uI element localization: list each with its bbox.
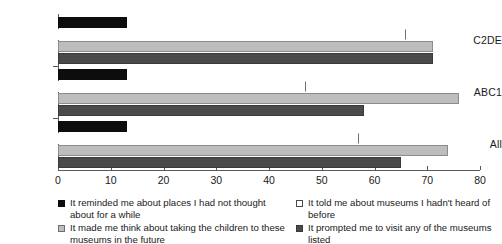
x-axis-tick-label: 0 [55, 174, 61, 186]
x-axis-tick-label: 30 [210, 174, 222, 186]
x-axis-tick-label: 10 [105, 174, 117, 186]
y-axis-tick [53, 66, 58, 67]
bar [58, 145, 448, 156]
x-axis-tick-label: 20 [158, 174, 170, 186]
x-axis-tick-label: 70 [421, 174, 433, 186]
bar [58, 121, 127, 132]
bar [58, 17, 127, 28]
bar [58, 157, 401, 168]
bar [58, 53, 433, 64]
legend-item: It made me think about taking the childr… [58, 222, 288, 244]
bar [58, 41, 433, 52]
bar [58, 133, 359, 144]
bar [58, 93, 459, 104]
legend-item-label: It prompted me to visit any of the museu… [308, 222, 496, 244]
black-square-icon [58, 200, 65, 207]
legend-item-label: It told me about museums I hadn't heard … [308, 197, 496, 220]
plot-area: 01020304050607080C2DEABC1All [0, 0, 502, 192]
bar [58, 105, 364, 116]
bar [58, 29, 406, 40]
legend-item-label: It made me think about taking the childr… [70, 222, 288, 244]
bar [58, 69, 127, 80]
y-axis-category-label: ABC1 [454, 86, 502, 98]
x-axis-tick-label: 60 [369, 174, 381, 186]
dark-gray-square-icon [296, 225, 303, 232]
bar [58, 81, 306, 92]
x-axis-tick-label: 40 [263, 174, 275, 186]
bar-chart: 01020304050607080C2DEABC1All It reminded… [0, 0, 502, 244]
legend-item: It reminded me about places I had not th… [58, 197, 288, 220]
x-axis-tick-label: 80 [474, 174, 486, 186]
y-axis-category-label: C2DE [454, 34, 502, 46]
white-square-icon [296, 200, 303, 207]
legend-item: It prompted me to visit any of the museu… [296, 222, 496, 244]
y-axis-category-label: All [454, 138, 502, 150]
x-axis-tick-label: 50 [316, 174, 328, 186]
chart-legend: It reminded me about places I had not th… [0, 192, 502, 244]
light-gray-square-icon [58, 225, 65, 232]
x-axis-tick [427, 166, 428, 170]
x-axis-line [58, 170, 480, 171]
x-axis-tick [480, 166, 481, 170]
legend-item: It told me about museums I hadn't heard … [296, 197, 496, 220]
y-axis-tick [53, 118, 58, 119]
legend-item-label: It reminded me about places I had not th… [70, 197, 288, 220]
